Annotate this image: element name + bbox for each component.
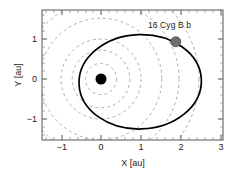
host-star-marker [96,74,107,85]
plot-canvas [0,0,233,175]
planet-annotation-label: 16 Cyg B b [148,20,191,30]
x-tick-label-3: 3 [218,143,223,152]
plot-background [42,10,223,140]
planet-marker [171,37,181,47]
y-axis-title: Y [au] [13,63,23,86]
x-tick-label-1: 1 [138,143,143,152]
x-tick-label-neg1: −1 [57,143,67,152]
x-tick-label-2: 2 [178,143,183,152]
y-tick-label-0: 0 [32,75,37,84]
orbit-diagram-figure: −1 0 1 2 3 1 0 −1 X [au] Y [au] 16 Cyg B… [0,0,233,175]
y-tick-label-neg1: −1 [27,115,37,124]
y-tick-label-1: 1 [32,35,37,44]
x-tick-label-0: 0 [98,143,103,152]
x-axis-title: X [au] [121,158,145,168]
